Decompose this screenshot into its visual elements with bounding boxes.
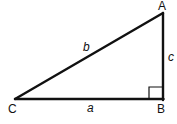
side-label-b: b: [83, 41, 90, 53]
vertex-label-b: B: [157, 103, 165, 115]
vertex-label-c: C: [8, 103, 17, 115]
side-b-hypotenuse: [15, 13, 163, 99]
right-triangle-diagram: A C B b c a: [0, 0, 177, 124]
right-angle-marker: [149, 87, 163, 99]
vertex-label-a: A: [158, 0, 166, 12]
side-label-a: a: [87, 102, 94, 114]
side-label-c: c: [168, 51, 174, 63]
